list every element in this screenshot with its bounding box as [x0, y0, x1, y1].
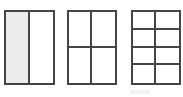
- cell: [133, 12, 156, 30]
- cell: [133, 65, 156, 83]
- cell: [133, 30, 156, 48]
- cell: [156, 48, 179, 66]
- cell: [92, 12, 115, 48]
- cell: [6, 12, 30, 83]
- cell: [69, 12, 92, 48]
- cell: [69, 48, 92, 84]
- cell: [156, 12, 179, 30]
- cell: [92, 48, 115, 84]
- cell: [156, 65, 179, 83]
- cell: [133, 48, 156, 66]
- faint-mark: [130, 90, 150, 94]
- cell: [30, 12, 54, 83]
- rectangle-halves: [4, 10, 55, 85]
- cell: [156, 30, 179, 48]
- rectangle-eighths: [131, 10, 181, 85]
- rectangle-fourths: [67, 10, 117, 85]
